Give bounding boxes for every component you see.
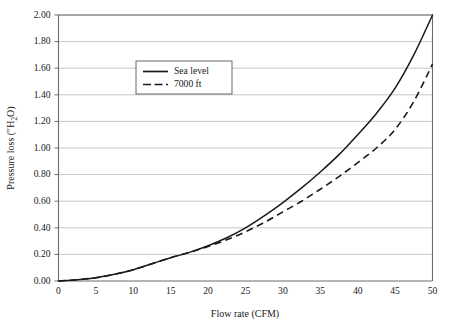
x-tick-label: 45 — [390, 285, 400, 296]
y-tick-label: 0.40 — [34, 222, 51, 233]
x-tick-label: 40 — [353, 285, 363, 296]
x-tick-label: 20 — [203, 285, 213, 296]
x-tick-label: 25 — [241, 285, 251, 296]
x-tick-label: 35 — [316, 285, 326, 296]
x-tick-label: 10 — [129, 285, 139, 296]
y-tick-label: 1.00 — [34, 142, 51, 153]
y-tick-label: 0.80 — [34, 168, 51, 179]
chart-figure: 0.000.200.400.600.801.001.201.401.601.80… — [0, 0, 449, 324]
chart-background — [0, 0, 449, 324]
x-tick-label: 50 — [428, 285, 438, 296]
x-axis-title: Flow rate (CFM) — [211, 308, 279, 320]
x-tick-label: 5 — [94, 285, 99, 296]
y-tick-label: 2.00 — [34, 9, 51, 20]
x-tick-label: 0 — [56, 285, 61, 296]
y-tick-label: 1.20 — [34, 115, 51, 126]
y-tick-label: 0.00 — [34, 275, 51, 286]
legend-label-7000-ft: 7000 ft — [174, 78, 202, 89]
x-tick-label: 30 — [278, 285, 288, 296]
y-axis-title-prefix: Pressure loss (″H — [5, 120, 17, 189]
y-tick-label: 1.40 — [34, 89, 51, 100]
y-tick-label: 0.20 — [34, 248, 51, 259]
chart-legend: Sea level 7000 ft — [136, 61, 232, 94]
y-axis-title-suffix: O) — [5, 106, 17, 117]
x-tick-label: 15 — [166, 285, 176, 296]
line-chart: 0.000.200.400.600.801.001.201.401.601.80… — [0, 0, 449, 324]
legend-label-sea-level: Sea level — [174, 65, 209, 76]
y-tick-label: 1.80 — [34, 35, 51, 46]
y-tick-label: 1.60 — [34, 62, 51, 73]
y-tick-label: 0.60 — [34, 195, 51, 206]
